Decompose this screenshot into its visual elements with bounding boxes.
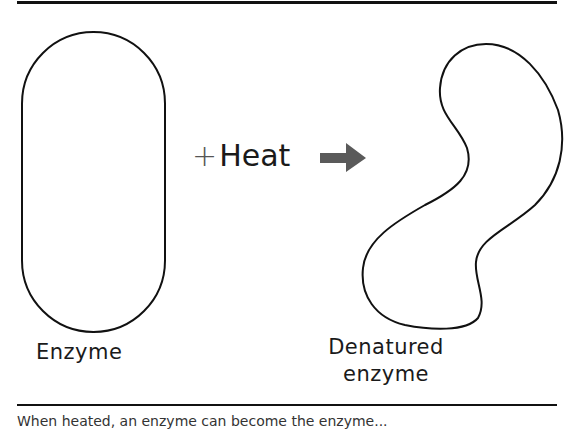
heat-label: +Heat	[192, 138, 290, 173]
right-arrow-icon	[320, 143, 366, 172]
enzyme-label: Enzyme	[36, 340, 122, 364]
figure-caption: When heated, an enzyme can become the en…	[17, 413, 388, 429]
plus-sign: +	[192, 138, 217, 173]
heat-text: Heat	[219, 138, 290, 173]
denatured-enzyme-label: Denatured enzyme	[320, 334, 452, 388]
denatured-label-line2: enzyme	[320, 361, 452, 388]
bottom-rule	[17, 404, 557, 406]
enzyme-capsule	[22, 32, 165, 332]
denatured-enzyme-blob	[363, 44, 563, 329]
denatured-label-line1: Denatured	[320, 334, 452, 361]
